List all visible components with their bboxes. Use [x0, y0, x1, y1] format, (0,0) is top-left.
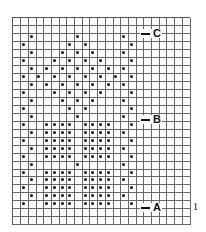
- stitch-dot-icon: [76, 115, 79, 118]
- stitch-dot-icon: [53, 171, 56, 174]
- stitch-dot-icon: [122, 147, 125, 150]
- stitch-dot-icon: [53, 131, 56, 134]
- stitch-dot-icon: [84, 131, 87, 134]
- stitch-dot-icon: [99, 155, 102, 158]
- marker-c-label: C: [153, 29, 161, 38]
- stitch-dot-icon: [30, 147, 33, 150]
- stitch-dot-icon: [130, 107, 133, 110]
- stitch-dot-icon: [68, 171, 71, 174]
- stitch-dot-icon: [61, 123, 64, 126]
- stitch-dot-icon: [45, 123, 48, 126]
- marker-c: C: [140, 29, 162, 38]
- stitch-dot-icon: [130, 139, 133, 142]
- stitch-dot-icon: [30, 99, 33, 102]
- stitch-dot-icon: [107, 83, 110, 86]
- marker-a-label: A: [153, 203, 161, 212]
- stitch-dot-icon: [61, 139, 64, 142]
- stitch-dot-icon: [107, 139, 110, 142]
- stitch-dot-icon: [45, 139, 48, 142]
- stitch-dot-icon: [76, 99, 79, 102]
- stitch-dot-icon: [61, 83, 64, 86]
- stitch-dot-icon: [130, 75, 133, 78]
- stitch-dot-icon: [84, 75, 87, 78]
- stitch-dot-icon: [30, 83, 33, 86]
- marker-dash-icon: [141, 33, 150, 35]
- stitch-dot-icon: [84, 91, 87, 94]
- stitch-dot-icon: [84, 147, 87, 150]
- stitch-dot-icon: [107, 131, 110, 134]
- marker-dash-icon: [141, 119, 150, 121]
- stitch-dot-icon: [76, 83, 79, 86]
- stitch-dot-icon: [99, 123, 102, 126]
- stitch-dot-icon: [30, 67, 33, 70]
- stitch-dot-icon: [122, 131, 125, 134]
- stitch-dot-icon: [107, 123, 110, 126]
- stitch-dot-icon: [76, 163, 79, 166]
- stitch-dot-icon: [130, 155, 133, 158]
- stitch-dot-icon: [22, 155, 25, 158]
- stitch-dot-icon: [53, 155, 56, 158]
- grid-cell: [182, 217, 190, 225]
- stitch-dot-icon: [84, 123, 87, 126]
- stitch-dot-icon: [30, 163, 33, 166]
- stitch-dot-icon: [61, 99, 64, 102]
- stitch-dot-icon: [130, 123, 133, 126]
- stitch-dot-icon: [61, 51, 64, 54]
- stitch-dot-icon: [22, 107, 25, 110]
- stitch-dot-icon: [53, 139, 56, 142]
- stitch-dot-icon: [22, 123, 25, 126]
- stitch-dot-icon: [84, 171, 87, 174]
- stitch-dot-icon: [99, 171, 102, 174]
- stitch-dot-icon: [61, 155, 64, 158]
- stitch-dot-icon: [84, 59, 87, 62]
- stitch-dot-icon: [22, 171, 25, 174]
- stitch-dot-icon: [99, 147, 102, 150]
- stitch-dot-icon: [53, 147, 56, 150]
- stitch-dot-icon: [130, 91, 133, 94]
- stitch-dot-icon: [53, 91, 56, 94]
- stitch-dot-icon: [30, 115, 33, 118]
- stitch-dot-icon: [53, 123, 56, 126]
- stitch-dot-icon: [107, 155, 110, 158]
- marker-b-label: B: [153, 115, 161, 124]
- stitch-dot-icon: [84, 107, 87, 110]
- marker-a: A: [140, 203, 162, 212]
- stitch-dot-icon: [122, 163, 125, 166]
- stitch-dot-icon: [99, 131, 102, 134]
- stitch-dot-icon: [45, 131, 48, 134]
- marker-dash-icon: [141, 207, 150, 209]
- stitch-dot-icon: [68, 147, 71, 150]
- stitch-dot-icon: [99, 139, 102, 142]
- stitch-dot-icon: [45, 171, 48, 174]
- stitch-dot-icon: [107, 67, 110, 70]
- stitch-dot-icon: [68, 155, 71, 158]
- stitch-dot-icon: [84, 155, 87, 158]
- marker-b: B: [140, 115, 162, 124]
- stitch-dot-icon: [45, 155, 48, 158]
- stitch-dot-icon: [84, 139, 87, 142]
- stitch-dot-icon: [107, 147, 110, 150]
- stitch-dot-icon: [61, 131, 64, 134]
- stitch-dot-icon: [53, 75, 56, 78]
- stitch-dot-icon: [22, 139, 25, 142]
- stitch-dot-icon: [107, 171, 110, 174]
- stitch-dot-icon: [61, 67, 64, 70]
- stitch-dot-icon: [45, 147, 48, 150]
- stitch-dot-icon: [61, 171, 64, 174]
- stitch-dot-icon: [30, 131, 33, 134]
- stitch-dot-icon: [130, 171, 133, 174]
- stitch-dot-icon: [61, 147, 64, 150]
- stitch-dot-icon: [61, 202, 64, 205]
- row-number-label: 1: [193, 201, 198, 212]
